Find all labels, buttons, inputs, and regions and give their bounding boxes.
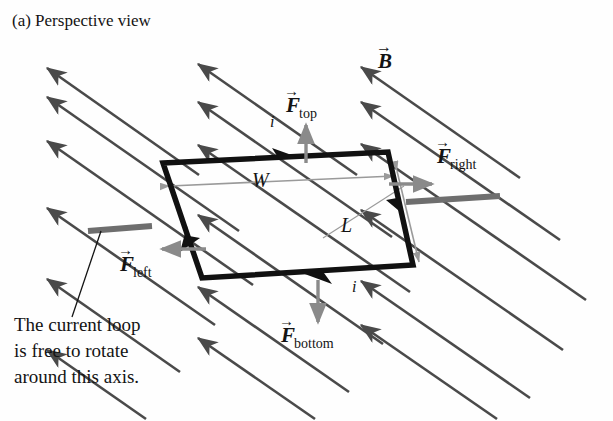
current-label-bottom: i — [352, 278, 356, 295]
force-label-f-left-sub: left — [133, 265, 152, 280]
force-label-f-top-arrow: → — [284, 83, 299, 99]
force-label-f-right-arrow: → — [435, 134, 450, 150]
current-label-top: i — [270, 113, 274, 130]
axis-caption-line-2: is free to rotate — [14, 340, 128, 361]
force-label-f-left-arrow: → — [118, 242, 133, 258]
force-label-f-top-sub: top — [299, 106, 317, 121]
magnetic-torque-diagram: (a) Perspective view B → F top → F right… — [0, 0, 613, 421]
force-label-f-right-sub: right — [450, 157, 477, 172]
length-label: L — [340, 214, 352, 236]
axis-caption-line-1: The current loop — [14, 314, 141, 335]
field-vector-label-group: B → — [376, 38, 392, 73]
axis-caption: The current loop is free to rotate aroun… — [14, 314, 141, 387]
width-label: W — [252, 169, 271, 191]
axis-caption-line-3: around this axis. — [14, 366, 139, 387]
force-label-f-bottom-arrow: → — [279, 313, 294, 329]
perspective-view-figure: (a) Perspective view B → F top → F right… — [0, 0, 613, 421]
part-label: (a) Perspective view — [12, 11, 151, 30]
field-vector-overline-arrow: → — [376, 38, 392, 55]
force-label-f-bottom-sub: bottom — [294, 336, 334, 351]
